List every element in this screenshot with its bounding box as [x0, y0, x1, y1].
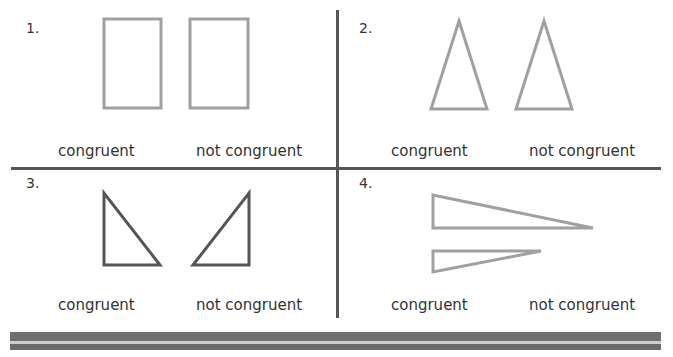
footer-band [10, 344, 661, 350]
long-triangle-shape [433, 195, 593, 228]
long-triangle-shape [433, 251, 541, 272]
rectangle-shape [104, 19, 161, 108]
triangle-shape [431, 21, 487, 109]
rectangle-shape [190, 19, 248, 108]
right-triangle-shape [104, 193, 160, 265]
triangle-shape [516, 21, 572, 109]
footer-band [10, 332, 661, 341]
right-triangle-shape [193, 193, 249, 265]
figures [0, 0, 673, 357]
